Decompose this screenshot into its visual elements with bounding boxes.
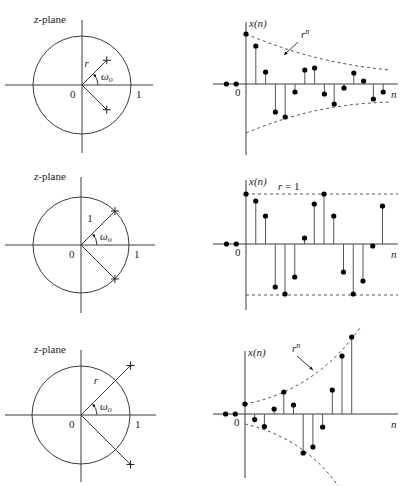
envelope-upper [245, 328, 360, 404]
radius-label: r [84, 57, 89, 69]
z-plane-panel: z-plane1ωo01 [5, 170, 155, 313]
pole-ray-lower [81, 245, 115, 279]
pole-ray-lower [82, 85, 107, 110]
sample-dot [253, 43, 258, 48]
sample-dot [381, 89, 386, 94]
sample-dot [302, 235, 307, 240]
sample-dot [321, 191, 326, 196]
envelope-lower [245, 424, 338, 486]
angle-arrow-icon [93, 404, 95, 406]
z-plane-title: z-plane [33, 170, 66, 182]
sample-dot [224, 241, 229, 246]
sample-dot [310, 444, 315, 449]
origin-label: 0 [70, 88, 76, 100]
sample-dot [273, 284, 278, 289]
z-plane-panel: z-planerωo01 [5, 343, 156, 482]
xlabel: n [391, 88, 397, 100]
sample-dot [341, 269, 346, 274]
sample-dot [380, 203, 385, 208]
sample-dot [332, 101, 337, 106]
r-exp: n [296, 341, 300, 350]
envelope-label: rn [301, 27, 309, 40]
stem-plot-panel: x(n)n0rn [213, 328, 398, 486]
sample-dot [312, 201, 317, 206]
envelope-label: r = 1 [278, 180, 300, 192]
sample-dot [282, 291, 287, 296]
xlabel: n [391, 418, 397, 430]
unit-label: 1 [134, 248, 140, 260]
z-plane-word: -plane [38, 343, 66, 355]
ylabel: x(n) [248, 17, 267, 30]
z-plane-word: -plane [38, 170, 66, 182]
envelope-lower [246, 102, 390, 133]
envelope-upper [246, 34, 390, 70]
sample-dot [291, 402, 296, 407]
stem-plot-panel: x(n)n0r = 1 [213, 175, 398, 310]
row-decaying: z-planerωo01x(n)n0rn [5, 13, 398, 155]
radius-label: 1 [87, 212, 93, 224]
sample-dot [263, 213, 268, 218]
sample-dot [262, 424, 267, 429]
sample-dot [339, 353, 344, 358]
sample-dot [320, 424, 325, 429]
sample-dot [371, 96, 376, 101]
omega-sub: o [108, 405, 112, 414]
angle-label: ωo [100, 400, 112, 414]
z-plane-word: -plane [38, 13, 66, 25]
sample-dot [272, 406, 277, 411]
sample-dot [360, 278, 365, 283]
z-plane-panel: z-planerωo01 [5, 13, 153, 153]
unit-label: 1 [135, 418, 141, 430]
origin-label: 0 [234, 416, 240, 428]
sample-dot [330, 387, 335, 392]
sample-dot [224, 81, 229, 86]
sample-dot [301, 450, 306, 455]
sample-dot [361, 78, 366, 83]
origin-label: 0 [235, 86, 241, 98]
row-constant: z-plane1ωo01x(n)n0r = 1 [5, 170, 398, 313]
omega-sub: o [108, 235, 112, 244]
ylabel: x(n) [247, 346, 266, 359]
envelope-label: rn [292, 341, 300, 354]
r-eq: = 1 [282, 180, 299, 192]
z-plane-title: z-plane [33, 343, 66, 355]
sample-dot [351, 291, 356, 296]
unit-label: 1 [136, 88, 142, 100]
ylabel: x(n) [248, 175, 267, 188]
angle-arrow-icon [94, 74, 96, 76]
sample-dot [243, 191, 248, 196]
sample-dot [281, 389, 286, 394]
sample-dot [243, 31, 248, 36]
sample-dot [252, 417, 257, 422]
sample-dot [341, 85, 346, 90]
xlabel: n [391, 248, 397, 260]
sample-dot [351, 70, 356, 75]
sample-dot [292, 89, 297, 94]
sample-dot [302, 67, 307, 72]
sample-dot [292, 274, 297, 279]
origin-label: 0 [69, 418, 75, 430]
sample-dot [349, 334, 354, 339]
sample-dot [273, 109, 278, 114]
r-exp: n [305, 27, 309, 36]
stem-plot-panel: x(n)n0rn [213, 17, 398, 155]
figure-rows: z-planerωo01x(n)n0rnz-plane1ωo01x(n)n0r … [5, 13, 398, 486]
sample-dot [283, 114, 288, 119]
angle-label: ωo [100, 230, 112, 244]
sample-dot [263, 69, 268, 74]
sample-dot [312, 65, 317, 70]
radius-label: r [94, 374, 99, 386]
omega-sub: o [109, 75, 113, 84]
pole-zero-diagram: z-planerωo01x(n)n0rnz-plane1ωo01x(n)n0r … [0, 0, 417, 486]
origin-label: 0 [235, 246, 241, 258]
sample-dot [253, 198, 258, 203]
sample-dot [331, 213, 336, 218]
z-plane-title: z-plane [33, 13, 66, 25]
row-growing: z-planerωo01x(n)n0rn [5, 328, 398, 486]
sample-dot [223, 411, 228, 416]
sample-dot [370, 243, 375, 248]
sample-dot [242, 401, 247, 406]
sample-dot [322, 91, 327, 96]
angle-label: ωo [101, 70, 113, 84]
origin-label: 0 [69, 248, 75, 260]
